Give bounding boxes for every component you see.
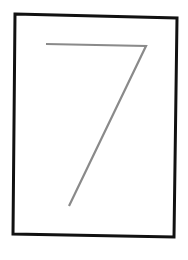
card-frame: [13, 14, 177, 237]
digit-card-svg: [0, 0, 188, 260]
